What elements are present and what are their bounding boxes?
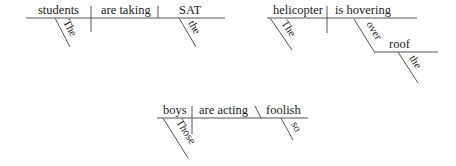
complement-divider <box>255 106 261 118</box>
verb-word: are acting <box>199 103 249 117</box>
subject-word: helicopter <box>273 3 324 17</box>
verb-word: is hovering <box>335 3 392 17</box>
preposition-word: over <box>364 19 385 42</box>
object-word: SAT <box>179 3 202 17</box>
object-modifier: the <box>186 18 203 36</box>
subject-word: boys <box>163 103 187 117</box>
verb-word: are taking <box>101 3 151 17</box>
diagram-1: students are taking SAT The the <box>26 3 225 47</box>
diagram-3: boys are acting foolish Those so <box>157 103 308 158</box>
complement-word: foolish <box>266 103 301 117</box>
prep-object-modifier: the <box>407 53 424 71</box>
prep-object-word: roof <box>389 37 411 51</box>
subject-word: students <box>38 3 79 17</box>
diagram-2: helicopter is hovering The over roof the <box>267 3 438 83</box>
sentence-diagrams: students are taking SAT The the helicopt… <box>0 0 456 166</box>
modifier-line <box>281 118 293 140</box>
complement-modifier: so <box>289 119 304 134</box>
